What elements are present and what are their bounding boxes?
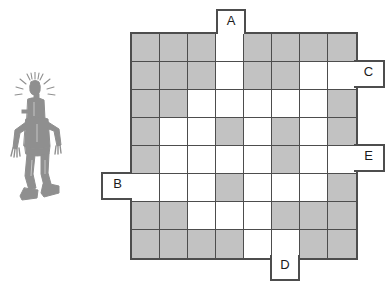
grid-cell-r0c3[interactable] [216,34,244,62]
grid-cell-r2c1[interactable] [160,90,188,118]
grid-cell-r7c7[interactable] [328,230,356,258]
grid-cell-r7c0[interactable] [132,230,160,258]
label-text-b: B [113,176,122,191]
grid-cell-r0c7[interactable] [328,34,356,62]
label-text-d: D [280,257,289,272]
grid-cell-r1c7[interactable] [328,62,356,90]
grid-cell-r1c3[interactable] [216,62,244,90]
grid-cell-r5c0[interactable] [132,174,160,202]
grid-cell-r0c4[interactable] [244,34,272,62]
grid-cell-r4c4[interactable] [244,146,272,174]
grid-cell-r0c5[interactable] [272,34,300,62]
grid-cell-r4c1[interactable] [160,146,188,174]
grid-cell-r3c6[interactable] [300,118,328,146]
grid-cell-r1c5[interactable] [272,62,300,90]
grid-cell-r5c5[interactable] [272,174,300,202]
grid-cell-r6c2[interactable] [188,202,216,230]
right-foot [41,184,59,197]
grid-cell-r0c1[interactable] [160,34,188,62]
right-hand [55,145,61,154]
grid-cell-r1c4[interactable] [244,62,272,90]
grid-cell-r4c6[interactable] [300,146,328,174]
side-nub [22,110,29,113]
grid-cell-r3c5[interactable] [272,118,300,146]
grid-cell-r1c6[interactable] [300,62,328,90]
label-text-c: C [364,64,373,79]
grid-cell-r2c2[interactable] [188,90,216,118]
label-box-a[interactable]: A [216,9,246,34]
grid-cell-r5c4[interactable] [244,174,272,202]
grid-cell-r6c7[interactable] [328,202,356,230]
grid-cell-r0c6[interactable] [300,34,328,62]
grid-cell-r7c2[interactable] [188,230,216,258]
grid-cell-r7c1[interactable] [160,230,188,258]
grid-cell-r0c2[interactable] [188,34,216,62]
head-shape [30,81,41,96]
left-leg [25,154,36,190]
grid-cell-r4c3[interactable] [216,146,244,174]
grid-cell-r5c7[interactable] [328,174,356,202]
grid-cell-r3c3[interactable] [216,118,244,146]
grid-cell-r7c3[interactable] [216,230,244,258]
grid-cell-r2c5[interactable] [272,90,300,118]
grid-cell-r4c2[interactable] [188,146,216,174]
grid-cell-r7c6[interactable] [300,230,328,258]
grid-cell-r3c4[interactable] [244,118,272,146]
grid-cell-r6c5[interactable] [272,202,300,230]
grid-cell-r3c7[interactable] [328,118,356,146]
grid-cell-r5c3[interactable] [216,174,244,202]
left-foot [20,188,38,200]
grid-cell-r2c7[interactable] [328,90,356,118]
grid-cell-r4c0[interactable] [132,146,160,174]
grid-cell-r7c5[interactable] [272,230,300,258]
label-box-d[interactable]: D [270,255,300,281]
grid-cell-r3c0[interactable] [132,118,160,146]
grid-cell-r4c7[interactable] [328,146,356,174]
label-text-e: E [364,148,373,163]
grid-cell-r7c4[interactable] [244,230,272,258]
grid-cell-r6c0[interactable] [132,202,160,230]
puzzle-canvas: A C E B D [0,0,389,306]
grid-cell-r3c2[interactable] [188,118,216,146]
grid-cell-r4c5[interactable] [272,146,300,174]
grid-cell-r0c0[interactable] [132,34,160,62]
grid-cell-r2c4[interactable] [244,90,272,118]
label-text-a: A [227,13,236,28]
grid-cell-r6c4[interactable] [244,202,272,230]
grid-cell-r1c2[interactable] [188,62,216,90]
grid-cell-r3c1[interactable] [160,118,188,146]
grid-cell-r2c3[interactable] [216,90,244,118]
grid-cell-r2c0[interactable] [132,90,160,118]
label-box-b[interactable]: B [101,172,132,200]
right-leg [41,154,51,186]
grid-cell-r5c2[interactable] [188,174,216,202]
grid-cell-r5c6[interactable] [300,174,328,202]
puzzle-grid[interactable] [130,32,358,260]
grid-cell-r6c3[interactable] [216,202,244,230]
left-hand [11,148,20,157]
grid-cell-r1c0[interactable] [132,62,160,90]
grid-cell-r5c1[interactable] [160,174,188,202]
robot-figure-svg [8,72,66,204]
label-box-c[interactable]: C [354,60,385,88]
grid-cell-r6c1[interactable] [160,202,188,230]
robot-character-illustration [8,72,66,204]
label-box-e[interactable]: E [354,144,385,172]
grid-cell-r2c6[interactable] [300,90,328,118]
grid-cell-r6c6[interactable] [300,202,328,230]
grid-cell-r1c1[interactable] [160,62,188,90]
